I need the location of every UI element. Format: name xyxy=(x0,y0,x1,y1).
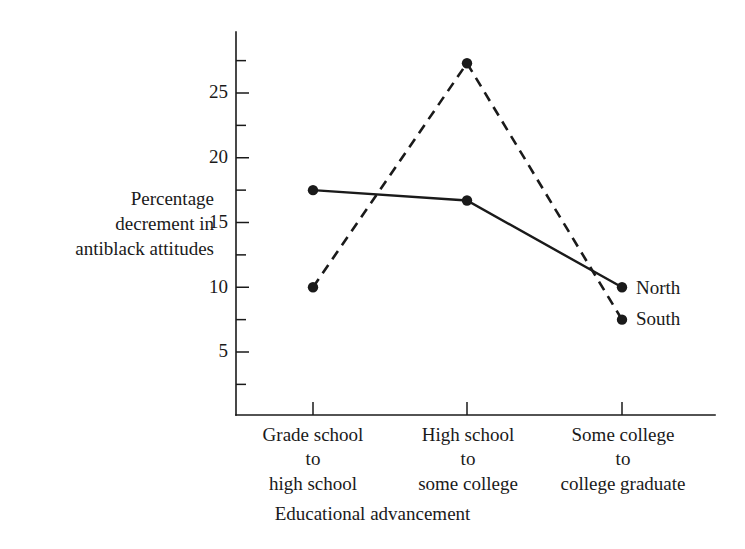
y-axis-title-line-2: decrement in xyxy=(14,211,214,236)
y-tick-label: 25 xyxy=(209,81,228,102)
data-series-layer xyxy=(313,63,622,319)
data-point-north-3 xyxy=(617,282,627,292)
x-axis-ticks xyxy=(313,402,622,415)
y-tick-label: 20 xyxy=(209,146,228,167)
chart-figure: 510152025 Percentage decrement in antibl… xyxy=(0,0,745,549)
data-point-south-3 xyxy=(617,314,627,324)
series-label-north: North xyxy=(636,277,680,299)
series-line-south xyxy=(313,63,622,319)
data-point-markers xyxy=(308,58,627,325)
data-point-north-2 xyxy=(462,195,472,205)
x-category-label-3: Some college to college graduate xyxy=(538,423,708,496)
data-point-south-1 xyxy=(308,282,318,292)
series-label-south: South xyxy=(636,308,680,330)
y-axis-title-line-1: Percentage xyxy=(14,186,214,211)
x-category-1-line-2: to xyxy=(228,447,398,471)
y-axis-title: Percentage decrement in antiblack attitu… xyxy=(14,186,214,261)
x-category-2-line-1: High school xyxy=(383,423,553,447)
x-category-2-line-2: to xyxy=(383,447,553,471)
x-category-1-line-3: high school xyxy=(228,472,398,496)
data-point-north-1 xyxy=(308,185,318,195)
x-category-2-line-3: some college xyxy=(383,472,553,496)
x-category-1-line-1: Grade school xyxy=(228,423,398,447)
x-category-label-2: High school to some college xyxy=(383,423,553,496)
x-category-3-line-1: Some college xyxy=(538,423,708,447)
axes-group xyxy=(236,32,715,415)
y-axis-title-line-3: antiblack attitudes xyxy=(14,236,214,261)
y-tick-label: 5 xyxy=(219,340,229,361)
x-category-label-1: Grade school to high school xyxy=(228,423,398,496)
data-point-south-2 xyxy=(462,58,472,68)
y-axis-ticks xyxy=(236,61,249,385)
x-category-3-line-2: to xyxy=(538,447,708,471)
y-tick-label: 10 xyxy=(209,276,228,297)
x-axis-title: Educational advancement xyxy=(0,503,745,525)
x-category-3-line-3: college graduate xyxy=(538,472,708,496)
